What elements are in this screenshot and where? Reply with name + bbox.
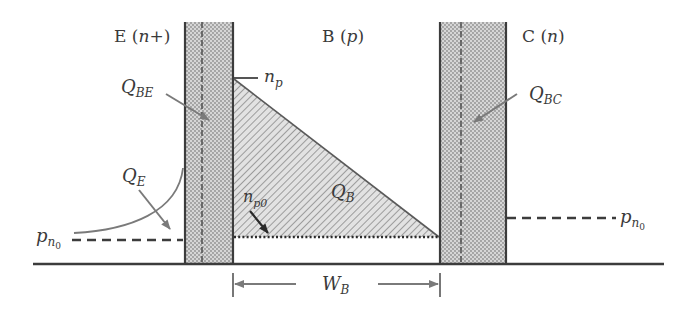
qe-arrow bbox=[139, 190, 170, 229]
bjt-charge-diagram: E (n+) B (p) C (n) np QBE QBC QE np0 QB … bbox=[0, 0, 690, 313]
collector-label: C (n) bbox=[522, 26, 565, 46]
pn0-left-label: pn0 bbox=[36, 225, 61, 251]
qe-label: QE bbox=[122, 165, 146, 189]
eb-depletion-region bbox=[185, 22, 233, 264]
pn0-right-label: pn0 bbox=[620, 206, 645, 232]
qbc-label: QBC bbox=[529, 83, 562, 107]
wb-label: WB bbox=[322, 273, 350, 297]
base-label: B (p) bbox=[322, 26, 364, 46]
emitter-label: E (n+) bbox=[114, 26, 170, 46]
np-label: np bbox=[264, 66, 283, 90]
qbe-label: QBE bbox=[121, 76, 154, 100]
bc-depletion-region bbox=[440, 22, 506, 264]
